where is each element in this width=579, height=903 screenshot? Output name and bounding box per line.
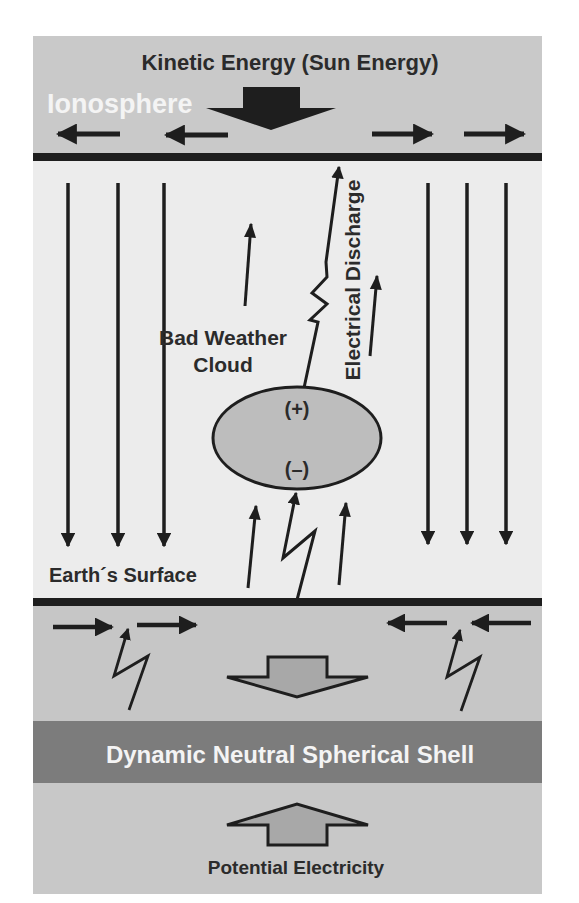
- earth-surface-line: [33, 598, 542, 606]
- electrical-discharge-label: Electrical Discharge: [341, 180, 364, 381]
- ionosphere-label: Ionosphere: [47, 89, 193, 119]
- cloud-negative-charge: (–): [285, 458, 309, 480]
- potential-electricity-label: Potential Electricity: [208, 857, 385, 878]
- cloud-label-line2: Cloud: [193, 353, 252, 376]
- dynamic-neutral-shell-label: Dynamic Neutral Spherical Shell: [106, 741, 474, 768]
- cloud-label-line1: Bad Weather: [159, 326, 287, 349]
- atmospheric-electricity-diagram: Kinetic Energy (Sun Energy) Ionosphere E…: [0, 0, 579, 903]
- kinetic-energy-label: Kinetic Energy (Sun Energy): [141, 50, 438, 75]
- ionosphere-boundary-line: [33, 153, 542, 161]
- earth-surface-label: Earth´s Surface: [49, 564, 197, 586]
- cloud-positive-charge: (+): [285, 398, 310, 420]
